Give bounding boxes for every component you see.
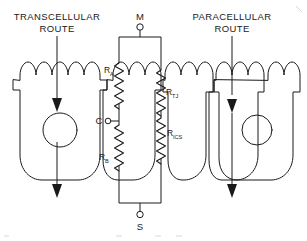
cell-1 (13, 62, 107, 180)
terminal-serosal-label: S (137, 221, 143, 232)
scan-edge-artifacts (4, 6, 302, 236)
resistor-tight-junction-sublabel: TJ (172, 93, 178, 99)
paracellular-route-title-line1: PARACELLULAR (192, 11, 271, 22)
terminal-serosal: S (137, 203, 143, 232)
resistor-apical-sublabel: A (110, 71, 114, 77)
terminal-cell-label: C (96, 115, 103, 126)
terminal-mucosal: M (136, 11, 144, 37)
terminal-cell: C (96, 115, 119, 126)
transcellular-route-title-line1: TRANSCELLULAR (14, 11, 101, 22)
resistor-intercellular-space-sublabel: ICS (173, 134, 183, 140)
resistor-basolateral-sublabel: B (105, 158, 109, 164)
transcellular-arrow-lower (52, 142, 62, 198)
transcellular-route-title-line2: ROUTE (39, 23, 74, 34)
resistor-intercellular-space: R ICS (157, 118, 183, 203)
transcellular-arrow-upper (52, 36, 62, 112)
cell-nucleus (43, 113, 77, 147)
resistor-tight-junction: R TJ (157, 70, 179, 118)
paracellular-route-title-line2: ROUTE (214, 23, 249, 34)
cell-3 (163, 62, 213, 180)
epithelial-transport-circuit-figure: TRANSCELLULAR ROUTE PARACELLULAR ROUTE M (0, 0, 307, 241)
terminal-mucosal-label: M (136, 11, 144, 22)
paracellular-arrow (227, 36, 237, 198)
cell-nucleus (242, 115, 272, 145)
resistor-apical: R A (104, 63, 124, 125)
